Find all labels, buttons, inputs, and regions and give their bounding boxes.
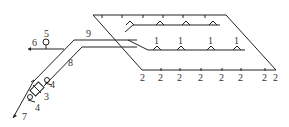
- label-1: 1: [178, 35, 183, 46]
- test-line: 6 5: [28, 28, 64, 51]
- label-7: 7: [22, 111, 27, 122]
- label-2: 2: [198, 72, 203, 83]
- valve-assembly: 4 3 4 7: [13, 78, 55, 123]
- pressure-gauge-icon: [43, 39, 49, 45]
- distribution-frame: [93, 15, 276, 70]
- label-2: 2: [273, 72, 278, 83]
- label-8: 8: [68, 57, 73, 68]
- sprinkler-icon: [156, 21, 164, 25]
- sprinkler-icon: [177, 46, 185, 50]
- label-4: 4: [35, 102, 40, 113]
- gate-valve-icon: [28, 95, 33, 100]
- upper-branch: [125, 21, 220, 32]
- label-5: 5: [44, 28, 49, 39]
- sprinkler-icon: [209, 21, 217, 25]
- middle-branch: 1 1 1 1: [128, 35, 245, 50]
- arrow-icon: [28, 47, 31, 51]
- sprinkler-icon: [182, 21, 190, 25]
- sprinkler-icon: [233, 46, 241, 50]
- label-2: 2: [158, 72, 163, 83]
- label-4: 4: [50, 79, 55, 90]
- sprinkler-icon: [126, 21, 134, 25]
- label-2: 2: [177, 72, 182, 83]
- label-2: 2: [238, 72, 243, 83]
- piping-diagram: 1 1 1 1 2 2 2 2 2 2 2 2 9 8 6 5: [0, 0, 289, 127]
- label-1: 1: [234, 35, 239, 46]
- sprinkler-icon: [153, 46, 161, 50]
- label-2: 2: [140, 72, 145, 83]
- label-1: 1: [208, 35, 213, 46]
- label-2: 2: [262, 72, 267, 83]
- label-9: 9: [86, 28, 91, 39]
- label-3: 3: [44, 91, 49, 102]
- sprinkler-icon: [207, 46, 215, 50]
- gate-valve-icon: [45, 78, 50, 83]
- label-2: 2: [219, 72, 224, 83]
- label-6: 6: [32, 37, 37, 48]
- label-1: 1: [154, 35, 159, 46]
